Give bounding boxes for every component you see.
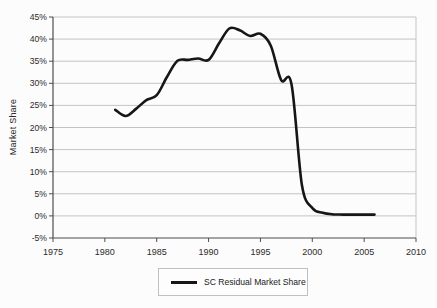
x-tick-label: 2010 (406, 247, 426, 257)
y-tick-label: 15% (30, 145, 48, 155)
y-tick-label: 35% (30, 56, 48, 66)
y-tick-label: 45% (30, 12, 48, 22)
y-tick-label: 40% (30, 34, 48, 44)
y-tick-label: 5% (35, 189, 48, 199)
legend-line-swatch (171, 281, 197, 284)
y-tick-label: 10% (30, 167, 48, 177)
x-tick-label: 1980 (95, 247, 115, 257)
series-line (115, 28, 374, 215)
y-tick-label: 25% (30, 100, 48, 110)
x-tick-label: 1985 (147, 247, 167, 257)
y-tick-label: 30% (30, 78, 48, 88)
y-tick-label: 20% (30, 123, 48, 133)
x-tick-label: 1995 (250, 247, 270, 257)
y-tick-label: -5% (32, 233, 48, 243)
x-tick-label: 2005 (354, 247, 374, 257)
y-tick-label: 0% (35, 211, 48, 221)
x-tick-label: 1990 (199, 247, 219, 257)
legend-label: SC Residual Market Share (204, 277, 306, 287)
chart-container: -5%0%5%10%15%20%25%30%35%40%45%197519801… (0, 0, 437, 308)
legend: SC Residual Market Share (158, 268, 308, 296)
line-chart: -5%0%5%10%15%20%25%30%35%40%45%197519801… (0, 0, 437, 308)
x-tick-label: 2000 (302, 247, 322, 257)
x-tick-label: 1975 (43, 247, 63, 257)
